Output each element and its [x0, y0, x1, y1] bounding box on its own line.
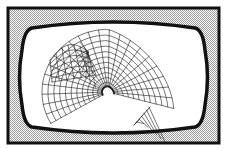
crt-screen — [20, 22, 208, 133]
crt-illustration — [0, 0, 227, 148]
illustration-canvas — [0, 0, 227, 148]
